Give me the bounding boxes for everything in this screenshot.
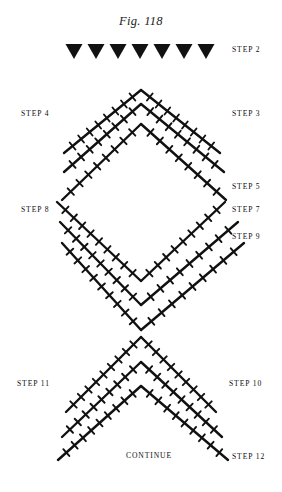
label-step-12: STEP 12: [232, 452, 265, 461]
down-triangle-icon: [66, 44, 83, 59]
stitch-lines-group: [57, 90, 244, 460]
label-step-4: STEP 4: [21, 109, 50, 118]
label-step-3: STEP 3: [232, 109, 261, 118]
stitch-diagram-svg: [0, 0, 282, 492]
label-step-11: STEP 11: [17, 379, 50, 388]
label-step-7: STEP 7: [232, 205, 261, 214]
down-triangle-icon: [88, 44, 105, 59]
down-triangle-icon: [110, 44, 127, 59]
label-step-10: STEP 10: [229, 379, 262, 388]
arrow-row-group: [66, 44, 215, 59]
figure-container: Fig. 118 STEP 2STEP 4STEP 3STEP 5STEP 8S…: [0, 0, 282, 492]
down-triangle-icon: [176, 44, 193, 59]
label-step-9: STEP 9: [232, 232, 261, 241]
label-step-5: STEP 5: [232, 182, 261, 191]
down-triangle-icon: [132, 44, 149, 59]
label-continue: CONTINUE: [126, 451, 172, 460]
down-triangle-icon: [154, 44, 171, 59]
down-triangle-icon: [198, 44, 215, 59]
row-step-3-4-right: [141, 90, 220, 153]
row-step-3-4-left: [64, 90, 141, 153]
label-step-8: STEP 8: [21, 205, 50, 214]
label-step-2: STEP 2: [232, 45, 261, 54]
